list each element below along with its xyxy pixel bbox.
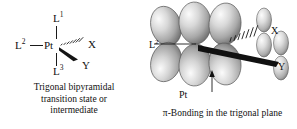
right-atom-label-y: Y — [278, 62, 285, 72]
right-panel-caption: π-Bonding in the trigonal plane — [148, 108, 297, 120]
orbital-lobe-x-top — [257, 8, 272, 32]
atom-label-l3-superscript: 3 — [60, 63, 64, 72]
atom-label-l2: L2 — [15, 40, 25, 51]
right-atom-label-pt: Pt — [179, 90, 187, 100]
solid-wedge-bond-pt-y — [59, 46, 83, 62]
right-atom-label-l2-superscript: 2 — [155, 38, 159, 46]
caption-line-3: intermediate — [4, 105, 144, 117]
orbital-lobe-x-bottom — [257, 33, 272, 57]
atom-label-l3: L3 — [53, 66, 63, 77]
bond-pt-l1 — [56, 26, 57, 39]
atom-label-l2-superscript: 2 — [22, 37, 26, 46]
ligand-x-p-orbital — [257, 8, 272, 57]
left-panel-caption: Trigonal bipyramidal transition state or… — [4, 82, 144, 117]
atom-label-l2-text: L — [15, 39, 22, 51]
right-atom-label-l2: L2 — [149, 40, 159, 50]
right-atom-label-x: X — [271, 26, 278, 36]
atom-label-l1-text: L — [53, 12, 60, 24]
bond-pt-l2 — [30, 45, 43, 46]
atom-label-l1-superscript: 1 — [60, 10, 64, 19]
caption-line-2: transition state or — [4, 94, 144, 106]
ligand-y-p-orbital — [274, 31, 289, 80]
atom-label-pt: Pt — [44, 40, 53, 51]
figure-root: L1 L2 L3 Pt X Y Trigonal bipyramidal tra… — [0, 0, 297, 129]
pi-bonding-orbital-diagram — [148, 0, 297, 104]
trigonal-bipyramidal-structure: L1 L2 L3 Pt X Y — [0, 2, 148, 80]
atom-label-l3-text: L — [53, 65, 60, 77]
orbital-lobe-upper-mid — [178, 1, 213, 45]
left-panel: L1 L2 L3 Pt X Y Trigonal bipyramidal tra… — [0, 0, 148, 129]
atom-label-l1: L1 — [53, 13, 63, 24]
caption-line-1: Trigonal bipyramidal — [4, 82, 144, 94]
atom-label-x: X — [88, 39, 96, 50]
atom-label-y: Y — [82, 60, 90, 71]
